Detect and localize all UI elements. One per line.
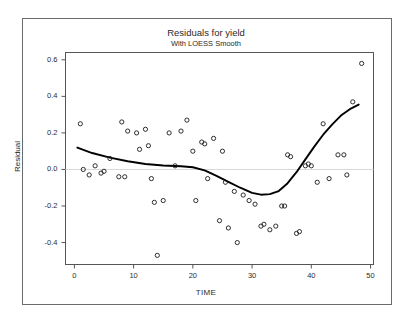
axis-tick-marks [62,60,371,269]
x-tick-label: 50 [358,271,384,280]
x-tick-label: 10 [121,271,147,280]
data-point-marker [226,226,230,230]
data-point-marker [345,173,349,177]
data-point-marker [217,219,221,223]
data-point-marker [87,173,91,177]
y-tick-label: 0.0 [32,164,58,173]
data-point-marker [321,122,325,126]
data-point-marker [235,240,239,244]
data-point-marker [327,177,331,181]
data-point-marker [206,177,210,181]
y-tick-label: -0.4 [32,238,58,247]
data-point-marker [360,61,364,65]
data-point-marker [149,177,153,181]
data-point-marker [241,193,245,197]
data-point-marker [155,253,159,257]
data-point-marker [137,147,141,151]
loess-curve-path [77,105,358,195]
data-point-marker [342,153,346,157]
data-point-marker [283,204,287,208]
data-point-marker [93,164,97,168]
data-point-marker [247,198,251,202]
data-point-marker [161,198,165,202]
data-point-marker [143,127,147,131]
x-tick-label: 40 [298,271,324,280]
data-point-marker [351,100,355,104]
data-point-marker [120,120,124,124]
data-point-marker [167,131,171,135]
data-point-marker [146,144,150,148]
data-point-marker [268,228,272,232]
data-point-marker [220,149,224,153]
data-point-marker [78,122,82,126]
data-point-marker [152,200,156,204]
data-point-marker [336,153,340,157]
data-point-marker [179,129,183,133]
data-point-marker [134,131,138,135]
y-tick-label: 0.4 [32,91,58,100]
x-tick-label: 20 [180,271,206,280]
data-point-marker [211,136,215,140]
data-point-marker [117,175,121,179]
data-point-marker [191,149,195,153]
data-point-marker [232,189,236,193]
x-tick-label: 30 [239,271,265,280]
data-point-marker [253,202,257,206]
data-point-marker [123,175,127,179]
data-point-marker [194,198,198,202]
y-tick-label: 0.6 [32,55,58,64]
loess-smooth-curve [77,105,358,195]
data-point-marker [274,224,278,228]
data-point-marker [315,180,319,184]
data-point-marker [126,129,130,133]
x-tick-label: 0 [61,271,87,280]
y-tick-label: 0.2 [32,128,58,137]
data-point-marker [185,118,189,122]
y-tick-label: -0.2 [32,201,58,210]
